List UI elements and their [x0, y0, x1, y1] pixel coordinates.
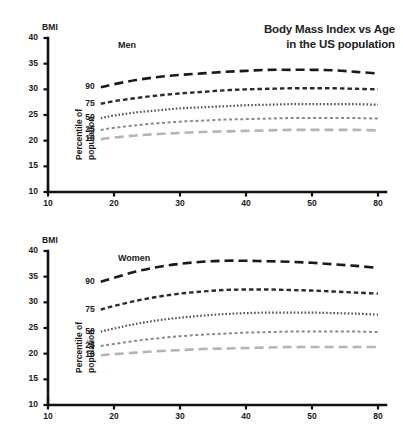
x-tick-label: 30	[169, 411, 191, 421]
y-axis-name: BMI	[42, 22, 58, 32]
x-tick-label: 40	[235, 198, 257, 208]
x-tick-label: 10	[37, 198, 59, 208]
percentile-label-90: 90	[77, 81, 95, 91]
series-line-p25	[101, 118, 378, 130]
panel-women-plot	[0, 213, 403, 426]
percentile-axis-label-line-1: Percentile of	[74, 322, 84, 373]
series-line-p75	[101, 88, 378, 103]
axis-spine	[48, 251, 386, 405]
percentile-label-75: 75	[77, 304, 95, 314]
y-tick-label: 35	[18, 58, 38, 68]
y-tick-label: 20	[18, 135, 38, 145]
axis-spine	[48, 38, 386, 192]
panel-label-women: Women	[118, 253, 150, 263]
panel-men	[0, 0, 403, 213]
series-line-p50	[101, 104, 378, 118]
y-tick-label: 15	[18, 160, 38, 170]
series-line-p25	[101, 332, 378, 346]
y-tick-label: 30	[18, 83, 38, 93]
percentile-axis-label-line-2: population	[86, 117, 96, 160]
y-tick-label: 30	[18, 296, 38, 306]
x-tick-label: 40	[235, 411, 257, 421]
x-tick-label: 80	[367, 198, 389, 208]
x-tick-label: 20	[103, 198, 125, 208]
y-tick-label: 25	[18, 322, 38, 332]
panel-men-plot	[0, 0, 403, 213]
bmi-vs-age-figure: Body Mass Index vs Age in the US populat…	[0, 0, 403, 426]
x-tick-label: 10	[37, 411, 59, 421]
percentile-axis-label-line-1: Percentile of	[74, 109, 84, 160]
series-line-p10	[101, 130, 378, 139]
panel-women	[0, 213, 403, 426]
y-tick-label: 25	[18, 109, 38, 119]
y-tick-label: 40	[18, 32, 38, 42]
y-tick-label: 15	[18, 373, 38, 383]
series-line-p50	[101, 313, 378, 332]
y-axis-name: BMI	[42, 235, 58, 245]
y-tick-label: 10	[18, 399, 38, 409]
y-tick-label: 40	[18, 245, 38, 255]
y-tick-label: 20	[18, 348, 38, 358]
series-line-p10	[101, 347, 378, 355]
percentile-label-75: 75	[77, 98, 95, 108]
x-tick-label: 30	[169, 198, 191, 208]
x-tick-label: 50	[301, 411, 323, 421]
series-line-p75	[101, 289, 378, 309]
x-tick-label: 80	[367, 411, 389, 421]
series-line-p90	[101, 261, 378, 282]
x-tick-label: 20	[103, 411, 125, 421]
x-tick-label: 50	[301, 198, 323, 208]
y-tick-label: 35	[18, 271, 38, 281]
percentile-label-90: 90	[77, 276, 95, 286]
panel-label-men: Men	[118, 40, 136, 50]
y-tick-label: 10	[18, 186, 38, 196]
series-line-p90	[101, 70, 378, 88]
percentile-axis-label-line-2: population	[86, 330, 96, 373]
